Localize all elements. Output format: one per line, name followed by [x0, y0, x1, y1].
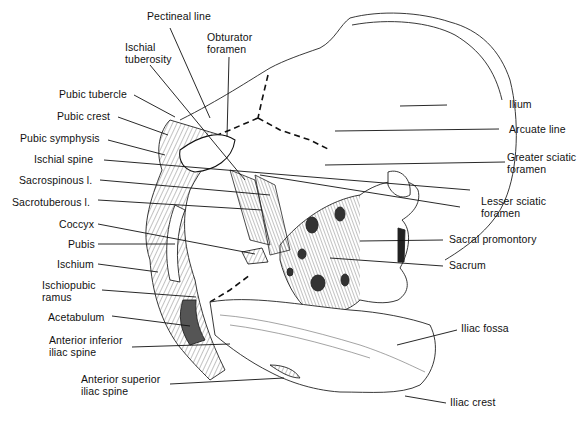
label-line2: foramen — [207, 44, 252, 56]
label-pubic-tubercle: Pubic tubercle — [59, 89, 127, 101]
ligaments — [230, 170, 290, 255]
label-sacrotuberous-l: Sacrotuberous l. — [12, 197, 90, 209]
label-line1: Greater sciatic — [507, 152, 576, 164]
label-ischium: Ischium — [57, 259, 94, 271]
label-pubic-crest: Pubic crest — [57, 111, 110, 123]
label-ischial-tuberosity: Ischial tuberosity — [125, 42, 172, 65]
label-line1: Ischiopubic — [42, 280, 96, 292]
label-pubic-symphysis: Pubic symphysis — [20, 133, 100, 145]
label-line2: ramus — [42, 292, 96, 304]
label-pectineal-line: Pectineal line — [147, 11, 211, 23]
label-pubis: Pubis — [68, 239, 95, 251]
label-iliac-crest: Iliac crest — [450, 397, 495, 409]
pelvis-diagram: Pectineal line Ischial tuberosity Obtura… — [0, 0, 588, 428]
label-acetabulum: Acetabulum — [48, 312, 104, 324]
label-line1: Anterior superior — [81, 374, 160, 386]
label-ischial-spine: Ischial spine — [34, 154, 93, 166]
label-coccyx: Coccyx — [59, 219, 94, 231]
label-sacral-promontory: Sacral promontory — [449, 234, 536, 246]
label-obturator-foramen: Obturator foramen — [207, 32, 252, 55]
label-iliac-fossa: Iliac fossa — [461, 323, 509, 335]
label-greater-sciatic-foramen: Greater sciatic foramen — [507, 152, 576, 175]
label-anterior-superior-iliac-spine: Anterior superior iliac spine — [81, 374, 160, 397]
label-line1: Anterior inferior — [49, 335, 122, 347]
label-line2: foramen — [481, 208, 546, 220]
label-line2: tuberosity — [125, 54, 172, 66]
label-line1: Obturator — [207, 32, 252, 44]
label-ischiopubic-ramus: Ischiopubic ramus — [42, 280, 96, 303]
label-sacrospinous-l: Sacrospinous l. — [19, 175, 92, 187]
iliac-fossa-shape — [210, 300, 435, 393]
label-lesser-sciatic-foramen: Lesser sciatic foramen — [481, 196, 546, 219]
sacroiliac-region — [360, 171, 419, 303]
label-ilium: Ilium — [509, 99, 532, 111]
label-line2: iliac spine — [49, 347, 122, 359]
label-line1: Lesser sciatic — [481, 196, 546, 208]
label-line2: iliac spine — [81, 386, 160, 398]
label-anterior-inferior-iliac-spine: Anterior inferior iliac spine — [49, 335, 122, 358]
label-sacrum: Sacrum — [449, 260, 486, 272]
label-line2: foramen — [507, 164, 576, 176]
label-arcuate-line: Arcuate line — [509, 124, 566, 136]
label-line1: Ischial — [125, 42, 172, 54]
